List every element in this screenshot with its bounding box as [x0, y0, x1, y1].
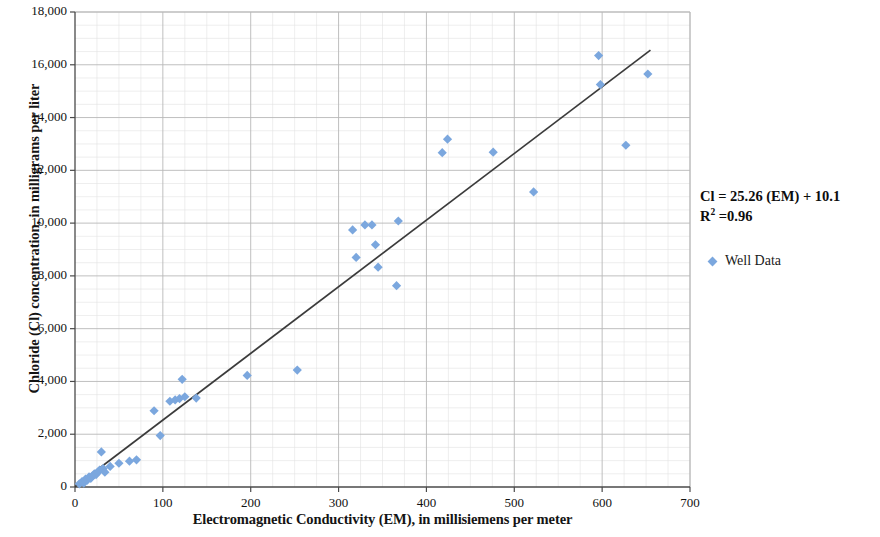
data-point-marker [348, 225, 357, 234]
y-tick-label: 8,000 [5, 267, 67, 283]
data-point-group [75, 51, 653, 488]
y-tick-label: 6,000 [5, 320, 67, 336]
y-tick-label: 16,000 [5, 56, 67, 72]
x-tick-label: 700 [665, 495, 715, 511]
data-point-marker [367, 220, 376, 229]
x-tick-label: 600 [577, 495, 627, 511]
data-point-marker [114, 459, 123, 468]
r-squared-line: R2 =0.96 [700, 206, 840, 226]
data-point-marker [489, 148, 498, 157]
regression-equation: Cl = 25.26 (EM) + 10.1 [700, 186, 840, 206]
x-tick-label: 0 [50, 495, 100, 511]
data-point-marker [529, 187, 538, 196]
data-point-marker [149, 406, 158, 415]
data-point-marker [394, 216, 403, 225]
y-tick-label: 0 [5, 478, 67, 494]
x-tick-label: 100 [138, 495, 188, 511]
r-squared-prefix: R [700, 208, 710, 224]
data-point-marker [596, 80, 605, 89]
diamond-marker-icon [708, 256, 718, 266]
data-point-marker [97, 447, 106, 456]
y-tick-label: 10,000 [5, 214, 67, 230]
scatter-chart-figure: Chloride (Cl) concentration, in milligra… [0, 0, 880, 537]
data-point-marker [125, 457, 134, 466]
data-point-marker [371, 240, 380, 249]
data-point-marker [443, 135, 452, 144]
x-tick-label: 500 [489, 495, 539, 511]
chart-legend: Well Data [709, 253, 781, 269]
data-point-marker [293, 365, 302, 374]
x-tick-label: 300 [314, 495, 364, 511]
y-tick-label: 14,000 [5, 109, 67, 125]
y-tick-label: 12,000 [5, 161, 67, 177]
data-point-marker [156, 431, 165, 440]
data-point-marker [621, 141, 630, 150]
data-point-marker [178, 375, 187, 384]
data-point-marker [438, 148, 447, 157]
data-point-marker [352, 253, 361, 262]
y-tick-label: 4,000 [5, 372, 67, 388]
r-squared-value: =0.96 [715, 208, 752, 224]
y-tick-label: 18,000 [5, 3, 67, 19]
legend-label-well-data: Well Data [725, 253, 781, 269]
x-tick-label: 400 [401, 495, 451, 511]
regression-annotation: Cl = 25.26 (EM) + 10.1 R2 =0.96 [700, 186, 840, 226]
data-point-marker [132, 455, 141, 464]
x-tick-label: 200 [226, 495, 276, 511]
data-point-marker [643, 69, 652, 78]
y-tick-label: 2,000 [5, 425, 67, 441]
data-point-marker [374, 263, 383, 272]
